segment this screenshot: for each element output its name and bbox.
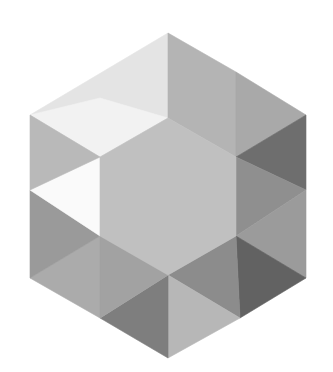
hexagon-gem-icon xyxy=(0,0,333,372)
canvas: Hexagonal gem icon xyxy=(0,0,333,372)
